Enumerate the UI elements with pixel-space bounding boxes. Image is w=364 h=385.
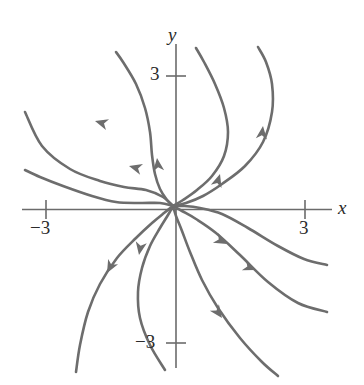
phase-portrait-figure: y x 3 −3 3 −3	[0, 0, 364, 385]
y-axis-label: y	[168, 25, 176, 44]
trajectory-curve	[116, 52, 173, 206]
trajectory-curve	[173, 206, 278, 376]
trajectory-curve	[25, 112, 173, 206]
x-axis-label: x	[338, 198, 346, 217]
flow-arrowhead-icon	[133, 241, 146, 256]
trajectory-curve	[25, 170, 173, 206]
y-tick-label-positive-3: 3	[150, 64, 160, 83]
flow-arrowheads-group	[93, 116, 268, 322]
trajectory-curve	[173, 47, 273, 206]
x-tick-label-positive-3: 3	[299, 218, 309, 237]
x-tick-label-negative-3: −3	[30, 218, 50, 237]
flow-arrowhead-icon	[93, 116, 109, 130]
flow-arrowhead-icon	[128, 161, 143, 175]
y-tick-label-negative-3: −3	[135, 332, 155, 351]
phase-portrait-canvas	[0, 0, 364, 385]
flow-arrowhead-icon	[242, 260, 258, 275]
flow-arrowhead-icon	[213, 233, 230, 249]
